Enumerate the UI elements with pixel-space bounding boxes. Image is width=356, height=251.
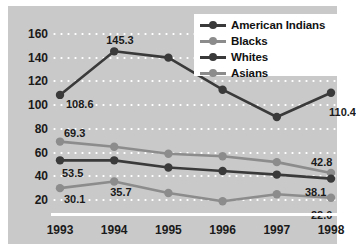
- data-point: [110, 142, 118, 150]
- y-axis-tick-label: 140: [28, 52, 48, 64]
- legend-marker-icon: [200, 51, 226, 63]
- y-axis-tick-label: 160: [28, 28, 48, 40]
- data-point-label: 35.7: [110, 187, 131, 198]
- data-point: [110, 156, 118, 164]
- data-point: [218, 152, 226, 160]
- data-point: [218, 167, 226, 175]
- data-point-label: 110.4: [329, 107, 356, 118]
- x-axis-line: [51, 213, 340, 216]
- data-point-label: 53.5: [62, 168, 83, 179]
- series-line: [60, 181, 331, 201]
- legend-item[interactable]: American Indians: [194, 18, 345, 32]
- series-line: [60, 160, 331, 178]
- data-point-label: 30.1: [64, 194, 85, 205]
- data-point: [164, 150, 172, 158]
- y-axis-tick-label: 60: [35, 147, 48, 159]
- data-point: [327, 89, 335, 97]
- data-point: [164, 163, 172, 171]
- data-point: [218, 197, 226, 205]
- legend-marker-icon: [200, 35, 226, 47]
- data-point: [56, 184, 64, 192]
- data-point: [56, 91, 64, 99]
- legend-item[interactable]: Blacks: [194, 34, 345, 48]
- data-point: [218, 85, 226, 93]
- legend-item-label: Whites: [231, 51, 268, 63]
- legend-item-label: Blacks: [231, 35, 267, 47]
- x-axis-tick-label: 1998: [309, 224, 353, 236]
- x-axis-tick-labels: 199319941995199619971998: [16, 224, 345, 240]
- legend-item-label: Asians: [231, 67, 268, 79]
- legend-marker-icon: [200, 67, 226, 79]
- data-point-label: 145.3: [106, 35, 134, 46]
- data-point-label: 108.6: [66, 99, 94, 110]
- data-point-label: 42.8: [311, 157, 332, 168]
- chart-plot-frame: 20406080100120140160 108.6145.3110.469.3…: [8, 6, 337, 244]
- data-point: [56, 137, 64, 145]
- x-axis-tick-label: 1994: [92, 224, 136, 236]
- data-point: [164, 53, 172, 61]
- x-axis-tick-label: 1996: [201, 224, 245, 236]
- legend-item-label: American Indians: [231, 19, 325, 31]
- legend-item[interactable]: Whites: [194, 50, 345, 64]
- data-point: [273, 170, 281, 178]
- chart-legend: American IndiansBlacksWhitesAsians: [194, 14, 345, 76]
- data-point: [327, 174, 335, 182]
- y-axis-tick-label: 20: [35, 194, 48, 206]
- data-point-label: 69.3: [64, 128, 85, 139]
- y-axis-tick-label: 100: [28, 99, 48, 111]
- data-point: [110, 47, 118, 55]
- data-point: [273, 158, 281, 166]
- data-point: [164, 189, 172, 197]
- y-axis-tick-label: 80: [35, 123, 48, 135]
- legend-item[interactable]: Asians: [194, 66, 345, 80]
- data-point: [110, 177, 118, 185]
- data-point: [56, 156, 64, 164]
- data-point-label: 38.1: [305, 187, 326, 198]
- legend-marker-icon: [200, 19, 226, 31]
- data-point: [273, 190, 281, 198]
- data-point: [327, 194, 335, 202]
- data-point: [273, 113, 281, 121]
- x-axis-tick-label: 1993: [38, 224, 82, 236]
- y-axis-tick-label: 120: [28, 75, 48, 87]
- y-axis-tick-label: 40: [35, 170, 48, 182]
- x-axis-tick-label: 1995: [146, 224, 190, 236]
- y-axis-tick-labels: 20406080100120140160: [8, 6, 48, 244]
- x-axis-tick-label: 1997: [255, 224, 299, 236]
